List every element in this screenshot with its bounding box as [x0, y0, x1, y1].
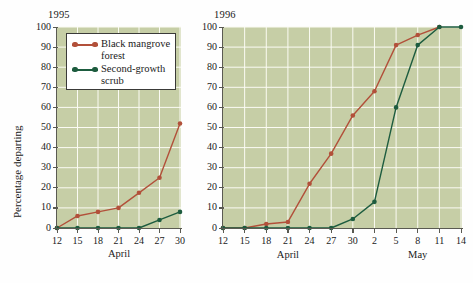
- data-point: [394, 105, 399, 110]
- y-tick-label: 40: [21, 141, 51, 152]
- y-tick-label: 20: [187, 181, 217, 192]
- y-tick: [219, 27, 224, 28]
- data-point: [286, 220, 291, 225]
- data-point: [351, 217, 356, 222]
- y-tick-label: 0: [21, 222, 51, 233]
- legend-entry-second-growth-scrub: Second-growth scrub: [72, 63, 165, 87]
- data-point: [96, 210, 101, 215]
- x-tick: [287, 228, 288, 233]
- x-tick-label: 12: [211, 235, 235, 246]
- y-tick-label: 70: [21, 81, 51, 92]
- y-tick-label: 20: [21, 181, 51, 192]
- x-tick-label: 30: [341, 235, 365, 246]
- x-tick: [352, 228, 353, 233]
- y-tick: [53, 207, 58, 208]
- y-tick-label: 90: [21, 41, 51, 52]
- x-tick: [309, 228, 310, 233]
- month-label-may-1996: May: [378, 249, 458, 260]
- x-tick: [98, 228, 99, 233]
- x-tick: [180, 228, 181, 233]
- x-tick: [118, 228, 119, 233]
- x-tick-label: 21: [276, 235, 300, 246]
- x-tick: [374, 228, 375, 233]
- data-point: [75, 214, 80, 219]
- y-tick: [219, 167, 224, 168]
- y-tick-label: 0: [187, 222, 217, 233]
- x-tick-label: 14: [449, 235, 473, 246]
- data-point: [415, 33, 420, 38]
- data-point: [157, 218, 162, 223]
- legend-entry-black-mangrove-forest: Black mangrove forest: [72, 38, 170, 62]
- data-point: [394, 43, 399, 48]
- x-tick-label: 2: [362, 235, 386, 246]
- x-tick-label: 5: [384, 235, 408, 246]
- y-tick-label: 10: [187, 201, 217, 212]
- x-tick: [159, 228, 160, 233]
- legend-label-black-mangrove-forest: Black mangrove forest: [101, 38, 170, 62]
- y-tick-label: 50: [21, 121, 51, 132]
- y-tick-label: 60: [187, 101, 217, 112]
- data-point: [178, 121, 183, 126]
- legend-swatch-second-growth-scrub: [72, 64, 98, 76]
- data-point: [137, 191, 142, 196]
- y-tick: [219, 147, 224, 148]
- y-tick: [219, 187, 224, 188]
- data-point: [329, 151, 334, 156]
- y-tick-label: 80: [21, 61, 51, 72]
- y-tick: [219, 47, 224, 48]
- y-tick-label: 10: [21, 201, 51, 212]
- x-tick-label: 18: [254, 235, 278, 246]
- data-point: [178, 210, 183, 215]
- y-tick-label: 40: [187, 141, 217, 152]
- panel-1996: 1996 0102030405060708090100 121518212427…: [196, 0, 473, 283]
- legend-swatch-black-mangrove-forest: [72, 39, 98, 51]
- month-label-april-1996: April: [248, 249, 328, 260]
- data-point: [372, 89, 377, 94]
- data-point: [459, 25, 464, 30]
- y-tick: [53, 127, 58, 128]
- y-tick-label: 90: [187, 41, 217, 52]
- y-tick: [53, 107, 58, 108]
- legend-label-second-growth-scrub: Second-growth scrub: [101, 63, 165, 87]
- data-point: [157, 175, 162, 180]
- x-tick: [461, 228, 462, 233]
- x-tick: [396, 228, 397, 233]
- x-tick: [266, 228, 267, 233]
- y-tick-label: 80: [187, 61, 217, 72]
- plot-area-1996: [223, 27, 462, 228]
- x-axis-line-1996: [222, 228, 463, 229]
- figure-two-panel-line-charts: 1995 Percentage departing 01020304050607…: [0, 0, 473, 283]
- y-tick-label: 30: [21, 161, 51, 172]
- x-tick-label: 8: [406, 235, 430, 246]
- y-tick: [53, 167, 58, 168]
- x-tick-label: 27: [319, 235, 343, 246]
- y-tick-label: 50: [187, 121, 217, 132]
- y-tick-label: 70: [187, 81, 217, 92]
- y-tick: [53, 27, 58, 28]
- x-tick-label: 11: [427, 235, 451, 246]
- y-tick: [219, 87, 224, 88]
- x-tick: [223, 228, 224, 233]
- y-tick-label: 100: [187, 21, 217, 32]
- plot-svg-1996: [223, 27, 462, 228]
- data-point: [437, 25, 442, 30]
- x-tick: [139, 228, 140, 233]
- data-point: [264, 222, 269, 227]
- legend-1995: Black mangrove forest Second-growth scru…: [66, 33, 176, 90]
- y-tick-label: 30: [187, 161, 217, 172]
- x-tick: [417, 228, 418, 233]
- x-tick: [57, 228, 58, 233]
- y-tick: [53, 47, 58, 48]
- x-tick-label: 24: [298, 235, 322, 246]
- y-tick: [53, 87, 58, 88]
- y-tick: [219, 67, 224, 68]
- month-label-april-1995: April: [89, 248, 149, 259]
- x-tick: [439, 228, 440, 233]
- y-tick: [219, 127, 224, 128]
- panel-1995: 1995 Percentage departing 01020304050607…: [0, 0, 196, 283]
- data-point: [372, 200, 377, 205]
- y-tick-label: 100: [21, 21, 51, 32]
- y-tick: [53, 67, 58, 68]
- x-tick: [331, 228, 332, 233]
- data-point: [415, 43, 420, 48]
